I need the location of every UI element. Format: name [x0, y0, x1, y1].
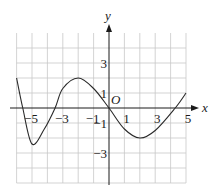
x-tick-label: 3 — [154, 111, 161, 126]
x-tick-label: −3 — [55, 111, 69, 126]
function-graph: x y O −5−3−1135 31−1−3 — [0, 0, 217, 190]
y-tick-label: 3 — [101, 56, 108, 71]
y-axis-arrow-icon — [106, 24, 112, 32]
y-axis-label: y — [103, 8, 111, 23]
y-tick-label: −1 — [93, 116, 107, 131]
x-axis-label: x — [201, 100, 208, 115]
y-tick-label: −3 — [93, 146, 107, 161]
x-tick-label: 1 — [123, 111, 130, 126]
origin-label: O — [111, 92, 121, 107]
x-axis-arrow-icon — [191, 105, 199, 111]
x-tick-label: 5 — [185, 111, 192, 126]
